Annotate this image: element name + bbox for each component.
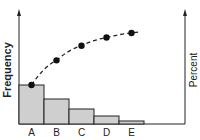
bar-b <box>44 99 69 124</box>
bar-a <box>19 85 44 124</box>
point-b <box>53 57 59 63</box>
right-axis-arrow-icon <box>183 9 187 16</box>
point-d <box>103 34 109 40</box>
bar-c <box>69 109 94 124</box>
bar-d <box>94 116 119 124</box>
left-axis-arrow-icon <box>17 9 21 16</box>
y2-axis-title: Percent <box>188 53 199 88</box>
bar-e <box>119 121 144 124</box>
x-tick-c: C <box>78 127 85 138</box>
bar-series <box>19 85 144 124</box>
point-e <box>128 30 134 36</box>
x-tick-e: E <box>128 127 135 138</box>
x-tick-labels: ABCDE <box>28 127 135 138</box>
point-c <box>78 43 84 49</box>
point-a <box>28 82 34 88</box>
x-tick-a: A <box>28 127 35 138</box>
y-axis-title: Frequency <box>1 41 13 98</box>
cumulative-curve <box>32 32 139 85</box>
pareto-chart: ABCDE Frequency Percent <box>0 0 200 140</box>
x-tick-d: D <box>103 127 110 138</box>
x-tick-b: B <box>53 127 60 138</box>
cumulative-points <box>28 30 134 88</box>
